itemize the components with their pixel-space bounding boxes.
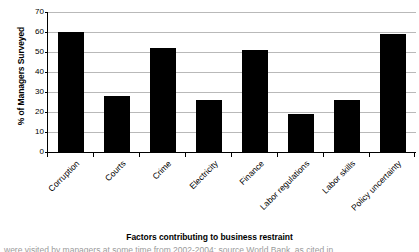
- x-tick-slot: [369, 153, 415, 157]
- bar-slot: [324, 12, 370, 152]
- bar-chart-figure: % of Managers Surveyed 010203040506070 C…: [0, 0, 419, 252]
- x-axis-tickmark: [231, 153, 232, 157]
- bar: [58, 32, 84, 152]
- clipped-source-caption: were visited by managers at some time fr…: [0, 245, 419, 252]
- y-axis-tick-label: 0: [22, 148, 44, 156]
- y-axis-tick-label: 10: [22, 128, 44, 136]
- x-axis-tickmarks: [47, 153, 415, 157]
- x-axis-tickmark: [139, 153, 140, 157]
- x-axis-category-label: Labor regulations: [258, 157, 313, 212]
- x-axis-category-label: Electricity: [187, 157, 221, 191]
- x-axis-tickmark: [277, 153, 278, 157]
- y-axis-tick-label: 20: [22, 108, 44, 116]
- y-axis-tick-label: 70: [22, 8, 44, 16]
- bar: [196, 100, 222, 152]
- x-axis-category-label: Crime: [151, 157, 176, 182]
- x-axis-category-label: Corruption: [47, 157, 84, 194]
- x-tick-slot: [277, 153, 323, 157]
- bar-series: [48, 12, 416, 152]
- bar: [334, 100, 360, 152]
- bar-slot: [140, 12, 186, 152]
- x-tick-slot: [231, 153, 277, 157]
- bar: [104, 96, 130, 152]
- x-axis-category-label: Finance: [237, 157, 267, 187]
- x-axis-title: Factors contributing to business restrai…: [0, 232, 419, 242]
- y-axis-tick-label: 30: [22, 88, 44, 96]
- y-axis-tick-label: 60: [22, 28, 44, 36]
- bar: [150, 48, 176, 152]
- x-tick-slot: [139, 153, 185, 157]
- x-axis-tickmark: [185, 153, 186, 157]
- x-axis-tickmark: [323, 153, 324, 157]
- x-axis-category-label: Labor skills: [321, 157, 360, 196]
- bar: [380, 34, 406, 152]
- plot-area: 010203040506070: [47, 12, 416, 153]
- y-axis-tick-label: 40: [22, 68, 44, 76]
- x-axis-tickmark: [47, 153, 48, 157]
- x-axis-category-label: Policy uncertainty: [349, 157, 405, 213]
- bar-slot: [94, 12, 140, 152]
- x-tick-slot: [323, 153, 369, 157]
- bar: [288, 114, 314, 152]
- bar-slot: [232, 12, 278, 152]
- y-axis-tick-label: 50: [22, 48, 44, 56]
- bar: [242, 50, 268, 152]
- x-tick-slot: [93, 153, 139, 157]
- bar-slot: [370, 12, 416, 152]
- x-axis-tickmark: [93, 153, 94, 157]
- x-axis-tickmark: [369, 153, 370, 157]
- bar-slot: [48, 12, 94, 152]
- bar-slot: [278, 12, 324, 152]
- x-tick-slot: [185, 153, 231, 157]
- x-tick-slot: [47, 153, 93, 157]
- x-axis-category-label: Courts: [103, 157, 129, 183]
- x-axis-tickmark-end: [414, 153, 415, 157]
- bar-slot: [186, 12, 232, 152]
